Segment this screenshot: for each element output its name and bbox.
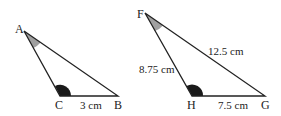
diagram-svg: A C B 3 cm F H G 12.5 cm 8.75 cm 7.5 cm xyxy=(0,0,281,116)
vertex-label-b: B xyxy=(114,98,122,112)
side-label-fh: 8.75 cm xyxy=(139,63,175,75)
side-label-hg: 7.5 cm xyxy=(218,99,248,111)
triangle-fhg: F H G 12.5 cm 8.75 cm 7.5 cm xyxy=(137,7,270,112)
vertex-label-a: A xyxy=(15,22,24,36)
vertex-label-c: C xyxy=(55,98,63,112)
triangle-abc: A C B 3 cm xyxy=(15,22,122,112)
triangle-fhg-outline xyxy=(145,13,265,96)
vertex-label-h: H xyxy=(187,98,196,112)
vertex-label-f: F xyxy=(137,7,144,21)
vertex-label-g: G xyxy=(261,98,270,112)
triangle-abc-outline xyxy=(24,31,118,96)
side-label-cb: 3 cm xyxy=(80,99,102,111)
similar-triangles-diagram: A C B 3 cm F H G 12.5 cm 8.75 cm 7.5 cm xyxy=(0,0,281,116)
side-label-fg: 12.5 cm xyxy=(208,45,244,57)
